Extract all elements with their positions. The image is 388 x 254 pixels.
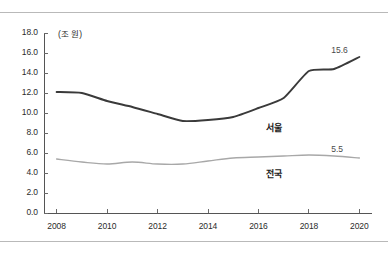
y-axis-tick-label: 16.0 (12, 47, 38, 57)
series-label-nationwide: 전국 (266, 167, 282, 180)
y-axis-unit-label: (조 원) (58, 27, 82, 39)
x-axis-tick-label: 2012 (141, 221, 175, 231)
chart-figure: 0.02.04.06.08.010.012.014.016.018.0 2008… (0, 0, 388, 254)
y-axis-tick-label: 12.0 (12, 87, 38, 97)
x-axis-tick-label: 2014 (191, 221, 225, 231)
value-label-nationwide: 5.5 (331, 144, 343, 154)
x-axis-tick-label: 2020 (342, 221, 376, 231)
series-label-seoul: 서울 (266, 121, 282, 134)
x-axis-tick-label: 2016 (241, 221, 275, 231)
y-axis-tick-label: 4.0 (12, 167, 38, 177)
chart-axes (44, 33, 372, 213)
series-line-nationwide (57, 155, 360, 164)
y-axis-tick-label: 6.0 (12, 147, 38, 157)
y-axis-tick-label: 10.0 (12, 107, 38, 117)
x-axis-tick-label: 2010 (90, 221, 124, 231)
x-axis-tick-label: 2018 (292, 221, 326, 231)
y-axis-tick-label: 0.0 (12, 207, 38, 217)
value-label-seoul: 15.6 (331, 45, 348, 55)
x-axis-tick-label: 2008 (40, 221, 74, 231)
chart-series (57, 57, 360, 164)
y-axis-tick-label: 18.0 (12, 27, 38, 37)
y-axis-tick-label: 8.0 (12, 127, 38, 137)
series-line-seoul (57, 57, 360, 121)
y-axis-tick-label: 14.0 (12, 67, 38, 77)
y-axis-tick-label: 2.0 (12, 187, 38, 197)
